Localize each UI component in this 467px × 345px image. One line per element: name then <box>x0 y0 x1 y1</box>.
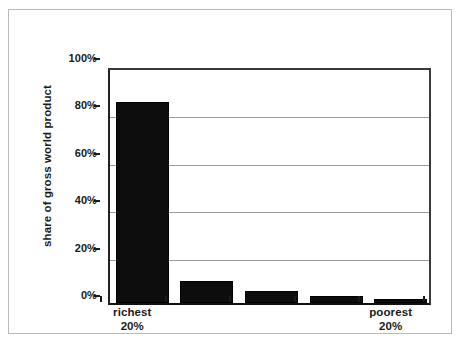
bar <box>116 102 169 303</box>
y-axis-title: share of gross world product <box>41 66 53 266</box>
x-axis-tick <box>423 296 425 302</box>
bar <box>374 299 427 303</box>
x-axis-label-line1: richest <box>113 306 151 318</box>
x-axis-label-line2: 20% <box>341 319 441 333</box>
x-axis-tick <box>100 296 102 302</box>
y-axis-tick-label: 40% <box>37 195 97 206</box>
y-axis-tick-label: 100% <box>37 53 97 64</box>
bar <box>245 291 298 303</box>
plot-area <box>108 68 431 305</box>
chart-figure: share of gross world product 100%80%60%4… <box>0 0 467 345</box>
y-axis-tick-label: 0% <box>37 290 97 301</box>
x-axis-tick <box>294 296 296 302</box>
x-axis-category-label: poorest20% <box>341 305 441 333</box>
x-axis-tick <box>358 296 360 302</box>
x-axis-category-label: richest20% <box>82 305 182 333</box>
y-axis-tick-label: 80% <box>37 100 97 111</box>
x-axis-label-line2: 20% <box>82 319 182 333</box>
x-axis-tick <box>165 296 167 302</box>
bar <box>310 296 363 303</box>
x-axis-label-line1: poorest <box>369 306 412 318</box>
x-axis-tick <box>229 296 231 302</box>
bar <box>180 281 233 304</box>
y-axis-tick-label: 20% <box>37 243 97 254</box>
y-axis-tick-label: 60% <box>37 148 97 159</box>
figure-border: share of gross world product 100%80%60%4… <box>8 9 452 334</box>
